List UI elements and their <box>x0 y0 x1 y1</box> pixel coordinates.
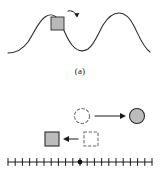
origin-dot <box>78 160 83 165</box>
figure-root: (a) <box>0 0 160 192</box>
wave-curve <box>8 13 150 53</box>
filled-circle <box>130 109 145 124</box>
filled-square <box>45 132 59 146</box>
panel-a-caption: (a) <box>0 66 160 76</box>
gray-square-marker <box>51 17 64 30</box>
dashed-square <box>84 132 98 146</box>
panel-b: (b) <box>0 96 160 192</box>
dashed-circle <box>75 109 90 124</box>
number-line <box>8 159 152 166</box>
left-arrow <box>63 136 78 142</box>
curved-motion-arrow <box>68 11 79 18</box>
panel-b-graphic <box>0 96 160 192</box>
panel-a: (a) <box>0 0 160 96</box>
panel-a-graphic <box>0 0 160 96</box>
right-arrow <box>95 113 126 119</box>
